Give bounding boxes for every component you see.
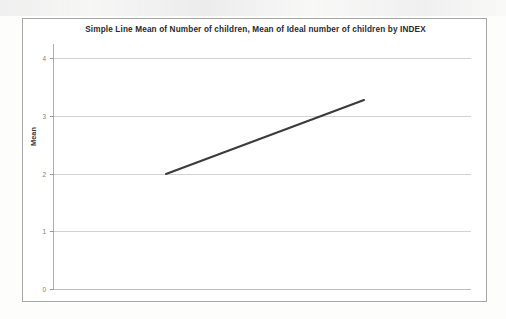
series-line-mean [53, 44, 471, 289]
plot-area: 4 3 2 1 0 Number of children [53, 44, 471, 289]
y-axis-title: Mean [29, 127, 38, 146]
chart-frame: Simple Line Mean of Number of children, … [22, 18, 487, 302]
gridline-0 [53, 289, 471, 290]
y-tick-label-2: 2 [42, 171, 46, 178]
y-tick-label-1: 1 [42, 228, 46, 235]
chart-title: Simple Line Mean of Number of children, … [23, 25, 488, 34]
y-tick-label-4: 4 [42, 55, 46, 62]
line-segment [166, 100, 364, 174]
chart-screenshot: Simple Line Mean of Number of children, … [0, 0, 506, 319]
y-tick-label-0: 0 [42, 286, 46, 293]
y-tick-label-3: 3 [42, 113, 46, 120]
scan-artifact [0, 0, 506, 16]
y-tick-0: 0 [50, 289, 54, 290]
